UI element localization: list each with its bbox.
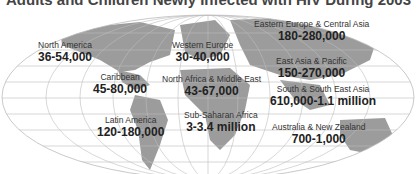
world-map-figure: Adults and Children Newly Infected with … [0, 0, 417, 174]
region-value: 150-270,000 [276, 66, 347, 80]
region-eastern-europe-central-asia: Eastern Europe & Central Asia 180-280,00… [254, 19, 369, 43]
region-value: 700-1,000 [272, 132, 366, 146]
region-value: 180-280,000 [254, 29, 369, 43]
region-name: Latin America [97, 115, 164, 125]
region-western-europe: Western Europe 30-40,000 [172, 40, 233, 64]
region-north-africa-middle-east: North Africa & Middle East 43-67,000 [162, 74, 261, 98]
region-name: North Africa & Middle East [162, 74, 261, 84]
region-australia-new-zealand: Australia & New Zealand 700-1,000 [272, 122, 366, 146]
region-value: 3-3.4 million [184, 120, 258, 134]
region-name: North America [38, 40, 92, 50]
region-south-south-east-asia: South & South East Asia 610,000-1.1 mill… [270, 84, 376, 108]
region-name: Caribbean [93, 72, 147, 82]
region-caribbean: Caribbean 45-80,000 [93, 72, 147, 96]
region-name: East Asia & Pacific [276, 56, 347, 66]
region-east-asia-pacific: East Asia & Pacific 150-270,000 [276, 56, 347, 80]
region-value: 120-180,000 [97, 125, 164, 139]
region-sub-saharan-africa: Sub-Saharan Africa 3-3.4 million [184, 110, 258, 134]
region-value: 43-67,000 [162, 84, 261, 98]
region-name: Western Europe [172, 40, 233, 50]
region-name: Australia & New Zealand [272, 122, 366, 132]
region-value: 30-40,000 [172, 50, 233, 64]
region-north-america: North America 36-54,000 [38, 40, 92, 64]
region-name: South & South East Asia [270, 84, 376, 94]
region-value: 36-54,000 [38, 50, 92, 64]
region-latin-america: Latin America 120-180,000 [97, 115, 164, 139]
region-value: 610,000-1.1 million [270, 94, 376, 108]
region-value: 45-80,000 [93, 82, 147, 96]
region-name: Sub-Saharan Africa [184, 110, 258, 120]
region-name: Eastern Europe & Central Asia [254, 19, 369, 29]
